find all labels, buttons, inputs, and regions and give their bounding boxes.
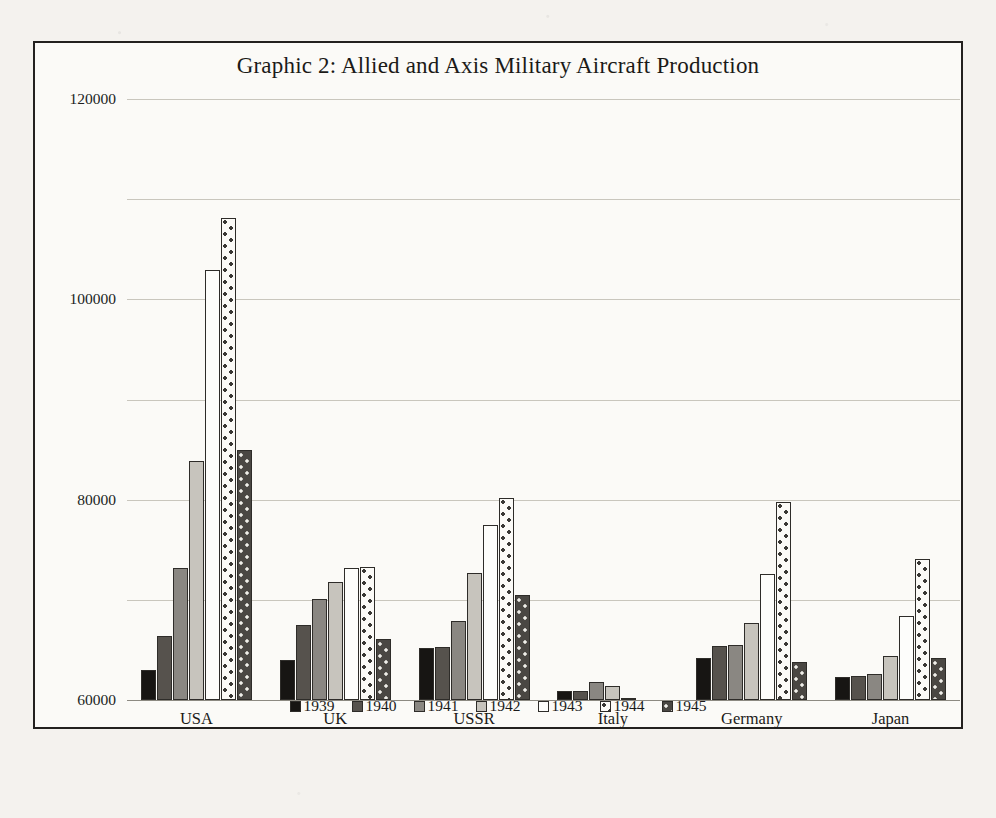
legend-item-1942[interactable]: 1942 xyxy=(476,697,521,715)
bar-uk-1945[interactable] xyxy=(376,639,391,700)
bar-ussr-1944[interactable] xyxy=(499,498,514,700)
legend-item-1941[interactable]: 1941 xyxy=(414,697,459,715)
bar-japan-1942[interactable] xyxy=(883,656,898,700)
legend-swatch-icon xyxy=(352,701,363,712)
legend-label: 1941 xyxy=(428,697,459,715)
chart-legend: 1939194019411942194319441945 xyxy=(35,697,961,715)
legend-item-1944[interactable]: 1944 xyxy=(600,697,645,715)
bars xyxy=(405,99,544,700)
bar-germany-1939[interactable] xyxy=(696,658,711,700)
bar-usa-1939[interactable] xyxy=(141,670,156,700)
chart-frame: Graphic 2: Allied and Axis Military Airc… xyxy=(33,41,963,729)
bar-ussr-1943[interactable] xyxy=(483,525,498,700)
legend-item-1940[interactable]: 1940 xyxy=(352,697,397,715)
bar-japan-1943[interactable] xyxy=(899,616,914,700)
legend-item-1945[interactable]: 1945 xyxy=(662,697,707,715)
y-axis-tick-label: 80000 xyxy=(77,491,116,509)
bar-uk-1944[interactable] xyxy=(360,567,375,700)
legend-label: 1942 xyxy=(490,697,521,715)
y-axis-tick-label: 100000 xyxy=(70,290,117,308)
bar-uk-1940[interactable] xyxy=(296,625,311,700)
chart-title: Graphic 2: Allied and Axis Military Airc… xyxy=(35,53,961,79)
bar-uk-1942[interactable] xyxy=(328,582,343,700)
bars xyxy=(682,99,821,700)
bars xyxy=(266,99,405,700)
bar-usa-1940[interactable] xyxy=(157,636,172,700)
bar-japan-1945[interactable] xyxy=(931,658,946,700)
bar-group: Germany xyxy=(682,99,821,700)
legend-label: 1939 xyxy=(304,697,335,715)
bars xyxy=(821,99,960,700)
bar-ussr-1940[interactable] xyxy=(435,647,450,700)
bar-usa-1944[interactable] xyxy=(221,218,236,700)
bar-usa-1945[interactable] xyxy=(237,450,252,700)
legend-item-1939[interactable]: 1939 xyxy=(290,697,335,715)
legend-swatch-icon xyxy=(600,701,611,712)
bar-ussr-1945[interactable] xyxy=(515,595,530,700)
bar-germany-1942[interactable] xyxy=(744,623,759,700)
bar-japan-1944[interactable] xyxy=(915,559,930,700)
legend-label: 1940 xyxy=(366,697,397,715)
legend-swatch-icon xyxy=(414,701,425,712)
bar-group: Japan xyxy=(821,99,960,700)
bar-ussr-1939[interactable] xyxy=(419,648,434,700)
bar-germany-1945[interactable] xyxy=(792,662,807,700)
bar-usa-1942[interactable] xyxy=(189,461,204,700)
bar-usa-1943[interactable] xyxy=(205,270,220,700)
bar-group: USA xyxy=(127,99,266,700)
bar-group: Italy xyxy=(543,99,682,700)
bar-group: UK xyxy=(266,99,405,700)
bar-ussr-1941[interactable] xyxy=(451,621,466,700)
bar-uk-1939[interactable] xyxy=(280,660,295,700)
bar-germany-1940[interactable] xyxy=(712,646,727,700)
bar-uk-1941[interactable] xyxy=(312,599,327,700)
bars xyxy=(543,99,682,700)
bar-group: USSR xyxy=(405,99,544,700)
bar-uk-1943[interactable] xyxy=(344,568,359,700)
bar-germany-1944[interactable] xyxy=(776,502,791,700)
legend-swatch-icon xyxy=(662,701,673,712)
legend-item-1943[interactable]: 1943 xyxy=(538,697,583,715)
plot-area: 120000100000800006000040000200000 USAUKU… xyxy=(127,99,960,700)
legend-swatch-icon xyxy=(290,701,301,712)
bars xyxy=(127,99,266,700)
legend-swatch-icon xyxy=(538,701,549,712)
legend-swatch-icon xyxy=(476,701,487,712)
bar-usa-1941[interactable] xyxy=(173,568,188,700)
bar-germany-1941[interactable] xyxy=(728,645,743,700)
bar-ussr-1942[interactable] xyxy=(467,573,482,700)
legend-label: 1943 xyxy=(552,697,583,715)
legend-label: 1945 xyxy=(676,697,707,715)
y-axis-tick-label: 120000 xyxy=(70,90,117,108)
bar-germany-1943[interactable] xyxy=(760,574,775,700)
legend-label: 1944 xyxy=(614,697,645,715)
bar-groups: USAUKUSSRItalyGermanyJapan xyxy=(127,99,960,700)
